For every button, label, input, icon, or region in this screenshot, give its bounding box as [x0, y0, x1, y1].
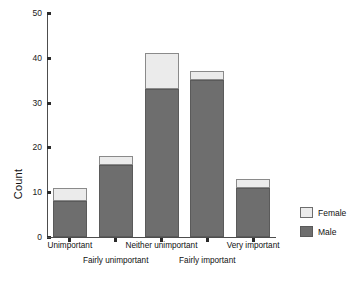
bar-segment-female	[99, 156, 133, 165]
bar-3	[145, 53, 179, 237]
y-tick-label: 30	[14, 98, 42, 108]
legend-label: Female	[318, 208, 346, 218]
bar-1	[53, 188, 87, 237]
bar-segment-female	[236, 179, 270, 188]
legend: FemaleMale	[300, 203, 346, 241]
y-axis-line	[47, 13, 48, 237]
y-tick-label: 10	[14, 187, 42, 197]
x-tick-label: Fairly important	[179, 256, 235, 265]
bar-segment-male	[99, 165, 133, 237]
legend-item-female: Female	[300, 203, 346, 222]
y-tick-mark	[47, 12, 51, 15]
y-axis-title: Count	[12, 154, 24, 214]
x-tick-mark	[114, 238, 117, 242]
x-tick-label: Neither unimportant	[126, 241, 198, 250]
bar-5	[236, 179, 270, 237]
bar-segment-male	[236, 188, 270, 237]
bar-segment-male	[190, 80, 224, 237]
y-tick-mark	[47, 57, 51, 60]
y-tick-mark	[47, 102, 51, 105]
bar-segment-female	[53, 188, 87, 201]
stacked-bar-chart: Count 01020304050 UnimportantFairly unim…	[0, 0, 350, 283]
bar-segment-female	[190, 71, 224, 80]
legend-swatch-icon	[300, 207, 313, 218]
legend-swatch-icon	[300, 226, 313, 237]
bar-segment-female	[145, 53, 179, 89]
y-tick-mark	[47, 146, 51, 149]
x-tick-label: Very important	[227, 241, 280, 250]
bar-segment-male	[145, 89, 179, 237]
y-tick-label: 40	[14, 53, 42, 63]
bar-2	[99, 156, 133, 237]
legend-item-male: Male	[300, 222, 346, 241]
y-tick-label: 0	[14, 232, 42, 242]
y-tick-label: 20	[14, 142, 42, 152]
bar-4	[190, 71, 224, 237]
y-tick-label: 50	[14, 8, 42, 18]
bar-segment-male	[53, 201, 87, 237]
x-tick-mark	[206, 238, 209, 242]
x-tick-label: Fairly unimportant	[83, 256, 149, 265]
legend-label: Male	[318, 227, 336, 237]
y-tick-mark	[47, 191, 51, 194]
x-tick-label: Unimportant	[48, 241, 93, 250]
